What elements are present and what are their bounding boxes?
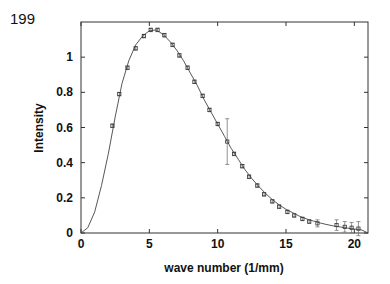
chart: 05101520 00.20.40.60.81 wave number (1/m… bbox=[0, 0, 390, 284]
y-axis-title: Intensity bbox=[32, 103, 46, 153]
x-axis: 05101520 bbox=[78, 22, 362, 251]
x-tick-label: 10 bbox=[211, 237, 225, 251]
x-axis-title: wave number (1/mm) bbox=[163, 261, 283, 275]
y-tick-label: 1 bbox=[66, 50, 73, 64]
plot-frame bbox=[81, 22, 368, 233]
x-tick-label: 20 bbox=[348, 237, 362, 251]
x-tick-label: 0 bbox=[78, 237, 85, 251]
y-axis: 00.20.40.60.81 bbox=[56, 50, 368, 240]
data-points bbox=[110, 28, 360, 235]
y-tick-label: 0 bbox=[66, 226, 73, 240]
fit-curve bbox=[81, 30, 368, 233]
x-tick-label: 15 bbox=[279, 237, 293, 251]
y-tick-label: 0.4 bbox=[56, 156, 73, 170]
y-tick-label: 0.6 bbox=[56, 121, 73, 135]
y-tick-label: 0.2 bbox=[56, 191, 73, 205]
y-tick-label: 0.8 bbox=[56, 85, 73, 99]
x-tick-label: 5 bbox=[146, 237, 153, 251]
